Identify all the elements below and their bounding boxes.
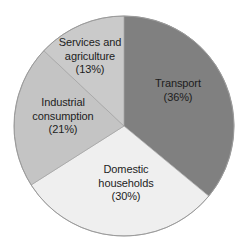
pie-slices xyxy=(14,16,234,236)
pie-chart: Transport (36%) Domestic households (30%… xyxy=(0,0,246,250)
pie-chart-svg xyxy=(0,0,246,250)
